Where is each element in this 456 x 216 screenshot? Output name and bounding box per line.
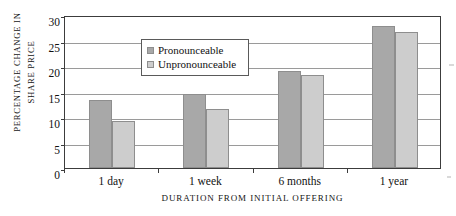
bar bbox=[301, 75, 324, 168]
y-axis-title-line-1: PERCENTAGE CHANGE IN bbox=[10, 0, 24, 152]
scan-artifact bbox=[449, 64, 454, 66]
legend-swatch-pronounceable bbox=[147, 47, 154, 54]
bar bbox=[89, 100, 112, 168]
x-tick-label: 1 day bbox=[61, 174, 161, 188]
x-tick-mark bbox=[253, 169, 254, 173]
chart-legend: Pronounceable Unpronounceable bbox=[141, 39, 249, 76]
y-tick-mark bbox=[61, 94, 65, 95]
x-tick-mark bbox=[64, 169, 65, 173]
legend-item: Unpronounceable bbox=[147, 57, 242, 71]
x-axis-title: DURATION FROM INITIAL OFFERING bbox=[64, 193, 441, 203]
bar bbox=[372, 26, 395, 168]
legend-item: Pronounceable bbox=[147, 43, 242, 57]
legend-label-pronounceable: Pronounceable bbox=[158, 44, 223, 57]
bar bbox=[206, 109, 229, 168]
y-tick-label: 30 bbox=[36, 16, 60, 29]
y-tick-label: 15 bbox=[36, 93, 60, 106]
y-tick-label: 25 bbox=[36, 42, 60, 55]
x-tick-label: 1 year bbox=[344, 174, 444, 188]
y-tick-label: 20 bbox=[36, 67, 60, 80]
bar bbox=[183, 94, 206, 168]
y-tick-label: 10 bbox=[36, 118, 60, 131]
y-tick-mark bbox=[61, 119, 65, 120]
bars-layer bbox=[65, 17, 440, 168]
bar bbox=[278, 71, 301, 168]
bar-chart-figure: PERCENTAGE CHANGE IN SHARE PRICE 0510152… bbox=[0, 0, 456, 216]
scan-artifact bbox=[447, 176, 451, 178]
x-tick-mark bbox=[347, 169, 348, 173]
plot-area: Pronounceable Unpronounceable bbox=[64, 16, 441, 169]
legend-label-unpronounceable: Unpronounceable bbox=[158, 58, 236, 71]
y-axis-tick-labels: 051015202530 bbox=[36, 9, 60, 177]
y-tick-mark bbox=[61, 68, 65, 69]
bar bbox=[395, 32, 418, 168]
x-tick-label: 1 week bbox=[155, 174, 255, 188]
x-axis-tick-labels: 1 day1 week6 months1 year bbox=[64, 174, 441, 190]
y-tick-mark bbox=[61, 145, 65, 146]
y-tick-mark bbox=[61, 43, 65, 44]
y-tick-label: 0 bbox=[36, 169, 60, 182]
legend-swatch-unpronounceable bbox=[147, 61, 154, 68]
x-tick-mark bbox=[158, 169, 159, 173]
x-tick-label: 6 months bbox=[250, 174, 350, 188]
y-tick-mark bbox=[61, 17, 65, 18]
y-tick-label: 5 bbox=[36, 144, 60, 157]
bar bbox=[112, 121, 135, 168]
